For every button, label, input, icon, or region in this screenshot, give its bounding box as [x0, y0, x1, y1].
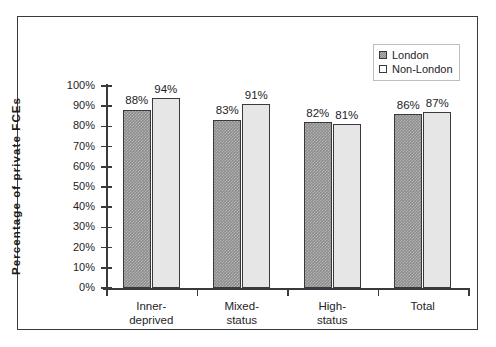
legend-item-non-london[interactable]: Non-London — [379, 62, 453, 76]
legend-label-non-london: Non-London — [392, 63, 453, 75]
y-axis-tick-label: 20% — [18, 241, 95, 254]
bar-value-label: 86% — [397, 99, 420, 112]
y-axis-tick-label: 90% — [18, 99, 95, 112]
y-axis-tick-label: 50% — [18, 180, 95, 193]
y-axis-tick-label: 80% — [18, 119, 95, 132]
bar-inner-deprived-non-london[interactable]: 94% — [152, 98, 180, 288]
chart-frame: London Non-London Percentage of private … — [17, 16, 478, 330]
x-axis-label-high-status: High-status — [287, 299, 377, 327]
y-axis-tick-label: 100% — [18, 79, 95, 92]
bar-mixed-status-london[interactable]: 83% — [213, 120, 241, 288]
bar-value-label: 82% — [306, 107, 329, 120]
legend-swatch-london-icon — [379, 51, 387, 59]
x-axis-tick — [378, 288, 380, 296]
plot-area: 88%94%83%91%82%81%86%87% — [106, 86, 468, 288]
y-axis-tick-label: 70% — [18, 140, 95, 153]
bar-total-london[interactable]: 86% — [394, 114, 422, 288]
bar-mixed-status-non-london[interactable]: 91% — [242, 104, 270, 288]
bar-inner-deprived-london[interactable]: 88% — [123, 110, 151, 288]
x-axis-label-inner-deprived: Inner-deprived — [106, 299, 196, 327]
bar-value-label: 91% — [245, 89, 268, 102]
bar-high-status-london[interactable]: 82% — [304, 122, 332, 288]
bar-value-label: 88% — [125, 94, 148, 107]
y-axis-tick-label: 60% — [18, 160, 95, 173]
bar-value-label: 83% — [216, 104, 239, 117]
bar-total-non-london[interactable]: 87% — [423, 112, 451, 288]
bar-value-label: 81% — [335, 109, 358, 122]
y-axis-tick-label: 30% — [18, 220, 95, 233]
x-axis-tick — [197, 288, 199, 296]
y-axis-tick-label: 40% — [18, 200, 95, 213]
bar-value-label: 94% — [154, 83, 177, 96]
x-axis-line — [103, 288, 469, 290]
x-axis-tick — [468, 288, 470, 296]
x-axis-tick — [287, 288, 289, 296]
chart-legend: London Non-London — [373, 44, 460, 81]
x-axis-label-total: Total — [378, 299, 468, 313]
x-axis-label-mixed-status: Mixed-status — [197, 299, 287, 327]
legend-item-london[interactable]: London — [379, 48, 453, 62]
bar-value-label: 87% — [426, 97, 449, 110]
legend-label-london: London — [392, 49, 429, 61]
bar-high-status-non-london[interactable]: 81% — [333, 124, 361, 288]
y-axis-tick-label: 0% — [18, 281, 95, 294]
legend-swatch-non-london-icon — [379, 65, 387, 73]
y-axis-tick-label: 10% — [18, 261, 95, 274]
x-axis-tick — [106, 288, 108, 296]
